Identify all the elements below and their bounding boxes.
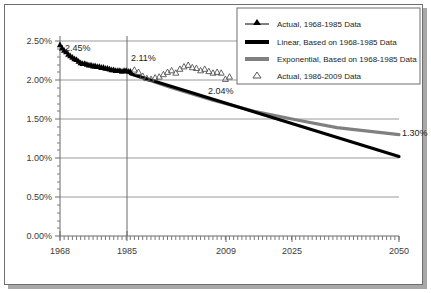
series-linear-line <box>130 74 399 157</box>
x-minor-ticks <box>60 236 399 240</box>
y-tick-label-2.00: 2.00% <box>26 75 52 85</box>
y-tick-label-0.00: 0.00% <box>26 231 52 241</box>
x-tick-label-1968: 1968 <box>50 246 70 256</box>
x-tick-label-2050: 2050 <box>389 246 409 256</box>
y-tick-label-1.50: 1.50% <box>26 114 52 124</box>
x-axis: 1968 1985 2009 2025 2050 <box>50 231 409 256</box>
chart-legend[interactable]: Actual, 1968-1985 Data Linear, Based on … <box>237 8 420 84</box>
legend-label-3: Actual, 1986-2009 Data <box>277 72 362 81</box>
plot-area-wrapper: 2.50% 2.00% 1.50% 1.00% 0.50% 0.00% <box>0 0 431 293</box>
x-tick-label-2009: 2009 <box>216 246 236 256</box>
y-tick-label-0.50: 0.50% <box>26 192 52 202</box>
y-tick-label-2.50: 2.50% <box>26 36 52 46</box>
annotation-2.11: 2.11% <box>131 53 156 63</box>
legend-label-1: Linear, Based on 1968-1985 Data <box>277 38 397 47</box>
x-tick-label-1985: 1985 <box>117 246 137 256</box>
y-major-ticks <box>55 41 60 236</box>
annotation-2.45: 2.45% <box>65 43 91 53</box>
legend-label-2: Exponential, Based on 1968-1985 Data <box>277 55 417 64</box>
annotation-2.04: 2.04% <box>208 86 234 96</box>
annotation-1.30: 1.30% <box>402 128 428 138</box>
chart-svg: 2.50% 2.00% 1.50% 1.00% 0.50% 0.00% <box>0 0 431 293</box>
chart-container: 2.50% 2.00% 1.50% 1.00% 0.50% 0.00% <box>0 0 431 293</box>
legend-label-0: Actual, 1968-1985 Data <box>277 20 362 29</box>
x-tick-label-2025: 2025 <box>282 246 302 256</box>
y-tick-label-1.00: 1.00% <box>26 153 52 163</box>
y-axis: 2.50% 2.00% 1.50% 1.00% 0.50% 0.00% <box>26 36 60 241</box>
